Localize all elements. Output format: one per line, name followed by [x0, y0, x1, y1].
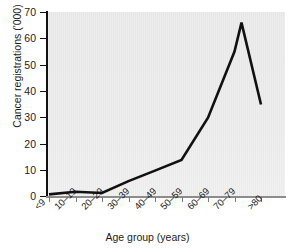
- x-axis-title: Age group (years): [0, 231, 295, 243]
- x-tick-7: [235, 197, 236, 202]
- x-tick-6: [208, 197, 209, 202]
- y-label-70: 70: [24, 7, 36, 17]
- y-tick-60: [40, 38, 46, 39]
- y-tick-10: [40, 170, 46, 171]
- y-tick-40: [40, 91, 46, 92]
- x-tick-4: [155, 197, 156, 202]
- y-label-60: 60: [24, 33, 36, 43]
- y-tick-30: [40, 117, 46, 118]
- x-tick-1: [76, 197, 77, 202]
- y-tick-20: [40, 144, 46, 145]
- y-label-10: 10: [24, 165, 36, 175]
- y-label-40: 40: [24, 86, 36, 96]
- x-tick-0: [49, 197, 50, 202]
- x-tick-3: [129, 197, 130, 202]
- y-label-30: 30: [24, 112, 36, 122]
- y-axis-title: Cancer registrations ('000): [11, 0, 23, 146]
- line-chart: Cancer registrations ('000) 70 60 50 40 …: [0, 0, 295, 252]
- series-line: [47, 12, 285, 197]
- y-tick-50: [40, 65, 46, 66]
- x-tick-5: [182, 197, 183, 202]
- y-label-50: 50: [24, 60, 36, 70]
- y-tick-70: [40, 12, 46, 13]
- y-label-20: 20: [24, 139, 36, 149]
- x-tick-2: [102, 197, 103, 202]
